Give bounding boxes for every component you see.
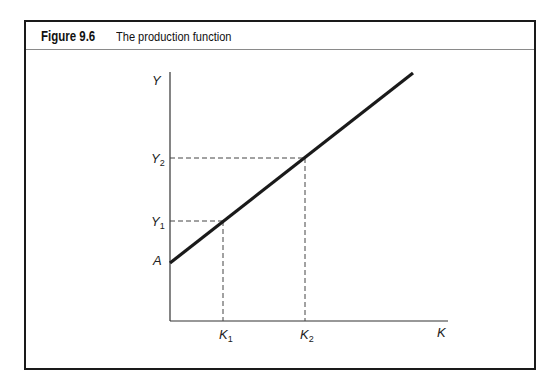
y1-label: Y1: [151, 214, 165, 231]
k2-label: K2: [300, 327, 314, 344]
intercept-label: A: [152, 253, 162, 268]
y2-label: Y2: [151, 151, 165, 168]
y-axis-label: Y: [152, 73, 162, 88]
production-function-line: [170, 73, 413, 263]
k1-label: K1: [219, 327, 233, 344]
production-function-chart: Y Y2 Y1 A K1 K2 K: [0, 0, 557, 382]
x-axis-label: K: [437, 325, 447, 340]
